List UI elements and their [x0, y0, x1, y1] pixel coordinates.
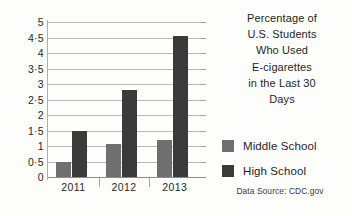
y-axis-tick — [200, 69, 206, 70]
legend-swatch — [222, 165, 234, 177]
bar — [173, 36, 188, 177]
y-axis-tick-labels: 00·511·522·533·544·55 — [14, 0, 44, 216]
legend-swatch — [222, 140, 234, 152]
y-axis-tick-label: 5 — [14, 17, 44, 27]
y-axis-tick — [200, 100, 206, 101]
y-axis-tick — [200, 131, 206, 132]
y-axis-tick — [200, 53, 206, 54]
y-axis-tick-label: 4·5 — [14, 33, 44, 43]
chart-title-line: Who Used — [212, 42, 352, 58]
y-axis-tick — [200, 162, 206, 163]
x-axis-separator-tick — [99, 178, 100, 187]
chart-side-panel: Percentage ofU.S. StudentsWho UsedE-ciga… — [212, 0, 352, 216]
bar — [157, 140, 172, 177]
bar — [106, 144, 121, 177]
y-axis-tick — [200, 38, 206, 39]
y-axis-tick-label: 2·5 — [14, 95, 44, 105]
y-axis-tick-label: 0 — [14, 172, 44, 182]
bar-group — [149, 22, 200, 177]
chart-title-line: Percentage of — [212, 10, 352, 26]
y-axis-tick-label: 1 — [14, 141, 44, 151]
chart-title: Percentage ofU.S. StudentsWho UsedE-ciga… — [212, 10, 352, 107]
y-axis-tick — [200, 115, 206, 116]
plot-region: 00·511·522·533·544·55 201120122013 — [0, 0, 212, 216]
y-axis-tick-label: 0·5 — [14, 157, 44, 167]
chart-legend: Middle SchoolHigh School — [222, 133, 352, 183]
chart-title-line: Days — [212, 91, 352, 107]
y-axis-tick-label: 3 — [14, 79, 44, 89]
bar — [56, 162, 71, 178]
legend-label: High School — [243, 165, 306, 177]
y-axis-tick — [200, 146, 206, 147]
legend-label: Middle School — [243, 140, 317, 152]
data-source-note: Data Source: CDC.gov — [212, 186, 348, 196]
chart-figure: 00·511·522·533·544·55 201120122013 Perce… — [0, 0, 352, 216]
bar — [72, 131, 87, 178]
y-axis-tick — [200, 84, 206, 85]
x-axis-separator-tick — [149, 178, 150, 187]
plot-area — [48, 22, 200, 177]
chart-title-line: E-cigarettes — [212, 59, 352, 75]
x-axis-line — [48, 177, 206, 178]
x-axis-tick-label: 2011 — [48, 181, 99, 193]
x-axis-tick-label: 2013 — [149, 181, 200, 193]
y-axis-tick-label: 3·5 — [14, 64, 44, 74]
bar-group — [99, 22, 150, 177]
bar-group — [48, 22, 99, 177]
chart-title-line: in the Last 30 — [212, 75, 352, 91]
y-axis-tick-label: 4 — [14, 48, 44, 58]
legend-item: Middle School — [222, 133, 352, 158]
y-axis-tick-label: 1·5 — [14, 126, 44, 136]
x-axis-tick-label: 2012 — [99, 181, 150, 193]
bar — [122, 90, 137, 177]
y-axis-tick-label: 2 — [14, 110, 44, 120]
legend-item: High School — [222, 158, 352, 183]
chart-title-line: U.S. Students — [212, 26, 352, 42]
y-axis-tick — [200, 22, 206, 23]
